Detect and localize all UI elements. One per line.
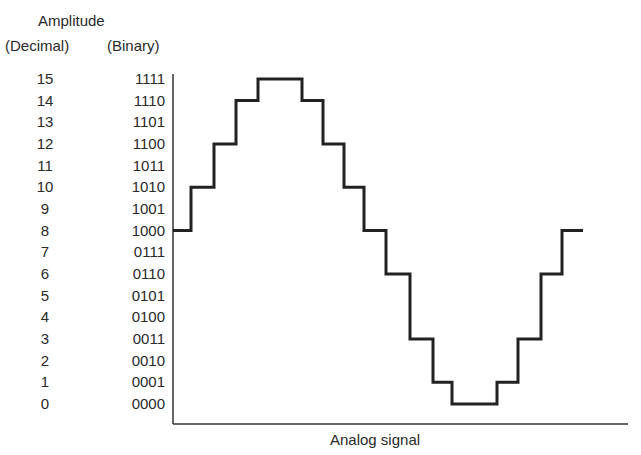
step-waveform	[173, 79, 583, 404]
quantized-waveform-plot	[0, 0, 641, 455]
x-axis-label: Analog signal	[330, 431, 420, 449]
